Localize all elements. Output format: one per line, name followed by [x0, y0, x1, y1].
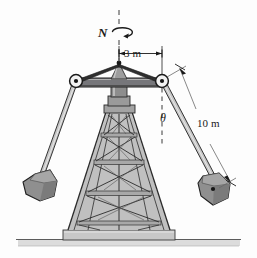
derrick-diagram-svg	[0, 0, 257, 258]
right-weight-center-dot	[211, 187, 215, 191]
left-cable	[38, 83, 76, 180]
tower-band-2	[94, 160, 144, 165]
right-pivot-pin	[160, 79, 164, 83]
left-cable-assembly	[23, 83, 77, 201]
right-weight-shade	[213, 184, 230, 205]
beam-half-span-label: 3 m	[124, 48, 141, 59]
apex-cone-group	[111, 61, 127, 79]
rotation-arrow-icon	[113, 28, 133, 37]
derrick-tower	[68, 112, 170, 230]
tower-band-3	[86, 191, 152, 196]
rotation-speed-label: N	[98, 26, 108, 39]
mast-collar-mid	[108, 96, 130, 106]
rotation-arrow-group	[113, 28, 133, 39]
left-cable-highlight	[41, 85, 75, 180]
left-pivot-pin	[74, 79, 78, 83]
right-cable-assembly	[162, 83, 230, 205]
cable-angle-label: θ	[160, 112, 166, 124]
base-pad-group	[63, 230, 175, 240]
dim-10m-line-upper	[180, 69, 196, 109]
tower-band-4	[77, 221, 161, 225]
dim-3m-arrow-right	[156, 52, 162, 56]
derrick-figure: N 3 m θ 10 m	[0, 0, 257, 258]
cable-length-label: 10 m	[197, 118, 220, 129]
rotation-arrow-head	[123, 34, 129, 39]
right-cable-highlight	[164, 85, 214, 179]
mast-stack	[104, 84, 135, 113]
left-weight-facet	[30, 170, 57, 183]
